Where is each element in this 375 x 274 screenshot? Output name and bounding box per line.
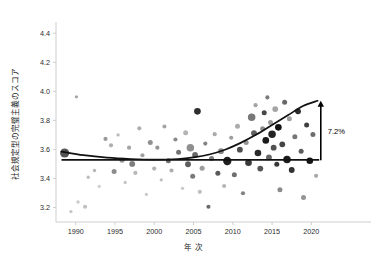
scatter-point <box>215 171 220 176</box>
scatter-point <box>169 168 173 172</box>
scatter-point <box>183 130 188 135</box>
scatter-point <box>277 187 282 192</box>
scatter-point <box>176 150 181 155</box>
x-tick-label: 2015 <box>264 227 280 236</box>
x-tick-label: 2000 <box>146 227 162 236</box>
increase-annotation: 7.2% <box>318 101 346 161</box>
chart-canvas: 3.23.43.63.84.04.24.4 199019952000200520… <box>0 0 375 274</box>
annotation-value-label: 7.2% <box>328 127 346 136</box>
scatter-point <box>198 190 202 194</box>
scatter-point <box>237 147 243 153</box>
scatter-chart: 3.23.43.63.84.04.24.4 199019952000200520… <box>0 0 375 274</box>
scatter-point <box>98 185 101 188</box>
scatter-point <box>185 161 191 167</box>
plot-axes <box>56 22 371 222</box>
scatter-point <box>262 110 267 115</box>
x-tick-label: 2010 <box>225 227 241 236</box>
y-tick-label: 4.0 <box>40 87 50 96</box>
y-tick-label: 4.4 <box>40 29 50 38</box>
scatter-point <box>279 141 285 147</box>
scatter-point <box>301 195 306 200</box>
scatter-point <box>289 167 295 173</box>
scatter-point <box>310 132 315 137</box>
y-tick-label: 3.8 <box>40 116 50 125</box>
scatter-point <box>268 130 276 138</box>
y-axis-ticks: 3.23.43.63.84.04.24.4 <box>40 29 56 212</box>
scatter-point <box>255 150 262 157</box>
scatter-point <box>112 169 117 174</box>
y-tick-label: 4.2 <box>40 58 50 67</box>
scatter-point <box>140 153 144 157</box>
scatter-point <box>274 162 279 167</box>
scatter-point <box>109 143 113 147</box>
scatter-point <box>223 157 231 165</box>
scatter-point <box>129 161 135 167</box>
scatter-point <box>194 108 201 115</box>
scatter-point <box>127 146 131 150</box>
scatter-point <box>287 116 292 121</box>
scatter-point <box>137 126 141 130</box>
scatter-point <box>160 178 163 181</box>
scatter-point <box>116 133 119 136</box>
scatter-point <box>148 140 153 145</box>
scatter-point <box>145 193 148 196</box>
scatter-point <box>304 123 309 128</box>
scatter-point <box>93 169 96 172</box>
scatter-point <box>248 113 256 121</box>
scatter-point <box>292 134 297 139</box>
y-tick-label: 3.6 <box>40 145 50 154</box>
scatter-point <box>187 144 195 152</box>
scatter-point <box>173 137 177 141</box>
scatter-point <box>213 132 217 136</box>
y-tick-label: 3.4 <box>40 174 50 183</box>
scatter-point <box>152 166 156 170</box>
scatter-point <box>133 171 137 175</box>
scatter-point <box>306 157 313 164</box>
scatter-point <box>103 137 107 141</box>
scatter-point <box>200 166 205 171</box>
x-axis-ticks: 1990199520002005201020152020 <box>68 222 320 236</box>
scatter-point <box>232 172 237 177</box>
scatter-point <box>265 95 269 99</box>
scatter-point <box>271 145 277 151</box>
x-tick-label: 1995 <box>107 227 123 236</box>
scatter-point <box>87 176 90 179</box>
y-axis-title: 社会規定型の完璧主義のスコア <box>10 68 20 180</box>
scatter-point <box>253 103 257 107</box>
scatter-point <box>299 149 304 154</box>
scatter-point <box>75 95 78 98</box>
scatter-point <box>272 106 278 112</box>
scatter-point <box>282 100 287 105</box>
scatter-point <box>229 136 233 140</box>
scatter-point <box>314 174 318 178</box>
annotation-arrow-head <box>318 101 324 107</box>
scatter-points-layer <box>60 95 318 213</box>
scatter-point <box>69 210 72 213</box>
scatter-point <box>206 205 210 209</box>
scatter-point <box>83 205 87 209</box>
scatter-point <box>123 181 126 184</box>
x-tick-label: 2020 <box>303 227 319 236</box>
scatter-point <box>190 174 195 179</box>
scatter-point <box>235 124 240 129</box>
x-tick-label: 1990 <box>68 227 84 236</box>
x-tick-label: 2005 <box>186 227 202 236</box>
scatter-point <box>203 142 207 146</box>
y-tick-label: 3.2 <box>40 203 50 212</box>
scatter-point <box>76 200 79 203</box>
scatter-point <box>262 137 269 144</box>
scatter-point <box>241 191 245 195</box>
scatter-point <box>275 124 282 131</box>
scatter-point <box>162 124 166 128</box>
scatter-point <box>222 184 226 188</box>
scatter-point <box>181 187 184 190</box>
x-axis-title: 年 次 <box>184 242 202 252</box>
scatter-point <box>257 166 263 172</box>
scatter-point <box>155 146 159 150</box>
